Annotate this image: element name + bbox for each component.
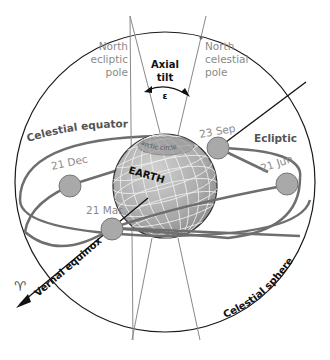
aries-symbol-icon: ♈ xyxy=(14,279,26,294)
celestial-pole-axis-bottom xyxy=(178,238,200,340)
season-dot-21-mar xyxy=(101,218,123,240)
vernal-equinox-label: Vernal equinox xyxy=(32,235,104,299)
ecliptic-label: Ecliptic xyxy=(254,132,297,144)
label-21-dec: 21 Dec xyxy=(50,152,89,171)
vernal-equinox-arrowhead xyxy=(16,294,31,308)
celestial-sphere-diagram: arctic circle EARTH 21 Dec 21 Mar 23 Sep… xyxy=(0,0,330,360)
svg-text:ecliptic: ecliptic xyxy=(90,53,128,65)
svg-text:tilt: tilt xyxy=(157,72,174,83)
celestial-pole-marker xyxy=(200,37,203,40)
ecliptic-axis-bottom xyxy=(132,238,152,340)
north-ecliptic-pole-label: North ecliptic pole xyxy=(90,40,128,78)
svg-text:celestial: celestial xyxy=(205,53,248,65)
season-dot-23-sep xyxy=(207,137,229,159)
svg-text:North: North xyxy=(205,40,234,52)
season-dot-21-dec xyxy=(59,175,81,197)
axial-tilt-label: Axial tilt ε xyxy=(151,59,179,101)
svg-text:pole: pole xyxy=(205,66,227,78)
celestial-sphere-label: Celestial sphere xyxy=(221,255,295,320)
svg-text:North: North xyxy=(99,40,128,52)
svg-text:ε: ε xyxy=(162,91,167,101)
svg-text:Axial: Axial xyxy=(151,59,179,70)
north-celestial-pole-label: North celestial pole xyxy=(205,40,248,78)
season-dot-21-jun xyxy=(276,173,298,195)
label-21-mar: 21 Mar xyxy=(86,204,123,216)
svg-text:pole: pole xyxy=(106,66,128,78)
